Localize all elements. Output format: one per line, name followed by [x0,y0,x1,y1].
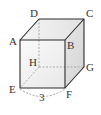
vertex-label-D: D [30,7,38,19]
vertex-label-A: A [9,35,17,47]
vertex-label-F: F [66,88,72,100]
vertex-label-C: C [86,7,93,19]
cube-diagram: D C A B H G E F 3 [0,0,101,115]
vertex-label-B: B [67,39,74,51]
vertex-label-H: H [29,56,37,68]
edge-length-label: 3 [39,91,45,103]
vertex-label-G: G [86,61,94,73]
vertex-label-E: E [9,83,16,95]
